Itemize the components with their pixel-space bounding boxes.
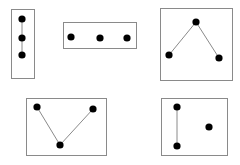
graph-edge [37,107,60,145]
graph-node [205,123,212,130]
graph-3 [161,9,233,81]
graph-1 [12,10,35,79]
graph-node [173,103,180,110]
graph-node [18,34,25,41]
graph-edge [169,22,196,55]
graph-node [192,18,199,25]
graph-diagram-canvas [0,0,240,165]
graph-4 [27,99,107,156]
graph-2 [64,23,137,49]
graph-node [173,142,180,149]
graph-node [123,34,130,41]
graph-node [33,103,40,110]
graph-node [18,51,25,58]
graph-node [96,34,103,41]
graph-node [18,15,25,22]
graph-node [215,54,222,61]
graph-node [89,105,96,112]
graph-5 [162,99,228,156]
graph-edge [60,109,93,145]
graph-frame [162,99,228,156]
graph-edge [196,22,219,58]
graph-node [165,51,172,58]
graph-node [67,33,74,40]
graph-node [56,141,63,148]
